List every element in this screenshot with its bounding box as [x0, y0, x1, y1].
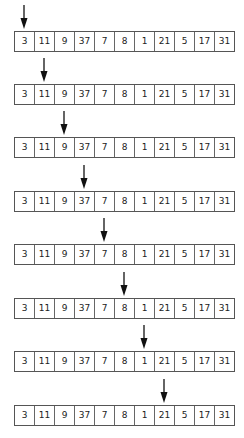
array-cell: 9 [55, 406, 75, 425]
array-cell: 31 [215, 32, 234, 51]
array-cell: 11 [35, 192, 55, 211]
array-cell: 5 [175, 406, 195, 425]
array-cell: 8 [115, 406, 135, 425]
array-cell: 3 [15, 32, 35, 51]
array-cell: 9 [55, 245, 75, 264]
array-cell: 5 [175, 352, 195, 371]
array-cell: 7 [95, 245, 115, 264]
array-cell: 21 [155, 192, 175, 211]
array-cell: 21 [155, 245, 175, 264]
array-cell: 9 [55, 138, 75, 157]
pointer-arrow-icon [159, 379, 169, 403]
pointer-arrow-icon [19, 5, 29, 29]
array-cell: 17 [195, 352, 215, 371]
array-cell: 21 [155, 406, 175, 425]
array-cell: 1 [135, 299, 155, 318]
scan-step-3: 3119377812151731 [14, 111, 234, 161]
array-cell: 7 [95, 32, 115, 51]
array-cell: 31 [215, 299, 234, 318]
array-cell: 37 [75, 192, 95, 211]
array-cell: 31 [215, 406, 234, 425]
array-cell: 7 [95, 85, 115, 104]
array-cell: 37 [75, 245, 95, 264]
array-cell: 7 [95, 192, 115, 211]
array-cell: 8 [115, 32, 135, 51]
scan-step-5: 3119377812151731 [14, 218, 234, 268]
array-cell: 31 [215, 352, 234, 371]
array-cell: 17 [195, 245, 215, 264]
array-cell: 21 [155, 352, 175, 371]
array-row: 3119377812151731 [14, 84, 235, 105]
array-cell: 7 [95, 352, 115, 371]
array-cell: 21 [155, 85, 175, 104]
array-cell: 8 [115, 138, 135, 157]
array-cell: 11 [35, 352, 55, 371]
array-cell: 3 [15, 245, 35, 264]
pointer-arrow-icon [59, 111, 69, 135]
array-cell: 1 [135, 192, 155, 211]
scan-step-6: 3119377812151731 [14, 272, 234, 322]
array-cell: 3 [15, 406, 35, 425]
array-cell: 17 [195, 406, 215, 425]
array-cell: 1 [135, 406, 155, 425]
array-cell: 1 [135, 352, 155, 371]
array-cell: 21 [155, 32, 175, 51]
array-cell: 21 [155, 299, 175, 318]
array-cell: 17 [195, 85, 215, 104]
array-cell: 5 [175, 138, 195, 157]
array-cell: 8 [115, 352, 135, 371]
array-row: 3119377812151731 [14, 405, 235, 426]
scan-step-8: 3119377812151731 [14, 379, 234, 429]
array-cell: 9 [55, 85, 75, 104]
array-cell: 31 [215, 138, 234, 157]
array-cell: 7 [95, 138, 115, 157]
array-cell: 1 [135, 85, 155, 104]
array-row: 3119377812151731 [14, 191, 235, 212]
array-cell: 1 [135, 245, 155, 264]
array-cell: 1 [135, 138, 155, 157]
array-row: 3119377812151731 [14, 244, 235, 265]
array-cell: 11 [35, 406, 55, 425]
array-cell: 11 [35, 85, 55, 104]
array-cell: 37 [75, 85, 95, 104]
array-cell: 9 [55, 352, 75, 371]
array-cell: 31 [215, 85, 234, 104]
array-cell: 17 [195, 192, 215, 211]
array-cell: 37 [75, 352, 95, 371]
array-cell: 8 [115, 299, 135, 318]
scan-step-1: 3119377812151731 [14, 5, 234, 55]
array-cell: 37 [75, 138, 95, 157]
array-cell: 17 [195, 32, 215, 51]
array-row: 3119377812151731 [14, 137, 235, 158]
pointer-arrow-icon [119, 272, 129, 296]
array-cell: 1 [135, 32, 155, 51]
array-cell: 7 [95, 299, 115, 318]
array-cell: 11 [35, 245, 55, 264]
array-cell: 8 [115, 192, 135, 211]
array-row: 3119377812151731 [14, 31, 235, 52]
array-cell: 3 [15, 138, 35, 157]
pointer-arrow-icon [99, 218, 109, 242]
array-cell: 5 [175, 32, 195, 51]
array-cell: 8 [115, 85, 135, 104]
scan-step-7: 3119377812151731 [14, 325, 234, 375]
pointer-arrow-icon [79, 165, 89, 189]
array-cell: 5 [175, 85, 195, 104]
array-cell: 7 [95, 406, 115, 425]
array-cell: 37 [75, 406, 95, 425]
pointer-arrow-icon [139, 325, 149, 349]
array-cell: 9 [55, 192, 75, 211]
scan-step-4: 3119377812151731 [14, 165, 234, 215]
scan-step-2: 3119377812151731 [14, 58, 234, 108]
array-cell: 17 [195, 138, 215, 157]
array-cell: 9 [55, 299, 75, 318]
array-cell: 8 [115, 245, 135, 264]
array-cell: 37 [75, 32, 95, 51]
array-cell: 3 [15, 192, 35, 211]
array-cell: 5 [175, 245, 195, 264]
pointer-arrow-icon [39, 58, 49, 82]
array-row: 3119377812151731 [14, 351, 235, 372]
array-cell: 9 [55, 32, 75, 51]
array-cell: 17 [195, 299, 215, 318]
array-cell: 37 [75, 299, 95, 318]
